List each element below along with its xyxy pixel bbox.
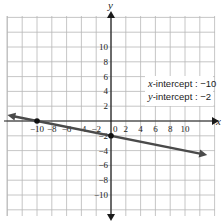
x-tick-label: 6 xyxy=(153,124,158,134)
line-arrow-left-icon xyxy=(7,113,16,121)
y-tick-label: 4 xyxy=(104,86,109,96)
y-tick-label: −10 xyxy=(94,190,109,200)
origin-label: 0 xyxy=(113,124,118,134)
y-tick-label: −4 xyxy=(98,146,108,156)
y-axis-down-arrow-icon xyxy=(107,214,115,221)
x-tick-label: 8 xyxy=(168,124,173,134)
y-axis-arrow-icon xyxy=(107,11,115,18)
intercept-annotation: x-intercept : −10y-intercept : −2 xyxy=(145,76,216,106)
y-tick-label: −6 xyxy=(98,160,108,170)
coordinate-plane: xy −10−8−6−4−2246810108642−2−4−6−8−100 x… xyxy=(0,0,222,222)
annotation-x-intercept: x-intercept : −10 xyxy=(147,78,216,89)
y-tick-label: 6 xyxy=(104,72,109,82)
x-intercept-point xyxy=(34,118,40,124)
x-tick-label: 4 xyxy=(138,124,143,134)
x-tick-label: 2 xyxy=(124,124,129,134)
axes: xy xyxy=(4,0,221,221)
annotation-y-intercept: y-intercept : −2 xyxy=(147,91,211,102)
x-tick-label: 10 xyxy=(181,124,191,134)
x-axis-label: x xyxy=(215,115,221,127)
x-tick-label: −10 xyxy=(30,124,45,134)
y-tick-label: −8 xyxy=(98,175,108,185)
annotation-value: -intercept : −2 xyxy=(153,91,211,102)
annotation-value: -intercept : −10 xyxy=(153,78,217,89)
y-axis-label: y xyxy=(107,0,113,11)
y-tick-label: 2 xyxy=(104,101,109,111)
y-tick-label: 10 xyxy=(99,42,109,52)
y-tick-label: 8 xyxy=(104,57,109,67)
y-intercept-point xyxy=(108,133,114,139)
